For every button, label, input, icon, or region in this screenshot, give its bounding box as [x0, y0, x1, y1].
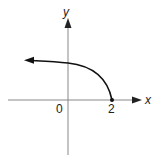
- y-axis-arrow-icon: [65, 18, 72, 28]
- origin-label: 0: [56, 102, 63, 116]
- curve-arrow-icon: [24, 57, 34, 64]
- graph: y x 0 2: [0, 0, 162, 155]
- y-axis-label: y: [62, 5, 70, 19]
- x-axis-arrow-icon: [132, 97, 142, 104]
- curve: [32, 61, 112, 101]
- x-axis-label: x: [144, 93, 152, 107]
- x-tick-label-2: 2: [108, 102, 115, 116]
